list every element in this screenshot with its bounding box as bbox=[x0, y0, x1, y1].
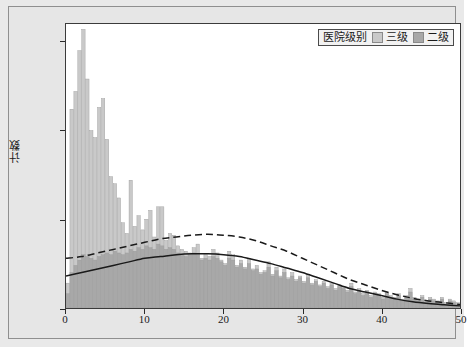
legend-entry-1[interactable]: 二级 bbox=[413, 32, 449, 43]
x-tick-mark bbox=[382, 309, 383, 314]
legend: 医院级别 三级 二级 bbox=[318, 29, 454, 46]
x-tick-mark bbox=[223, 309, 224, 314]
x-tick-label: 0 bbox=[45, 314, 85, 325]
legend-entry-0[interactable]: 三级 bbox=[372, 32, 408, 43]
density-curve bbox=[66, 254, 460, 306]
x-tick-mark bbox=[461, 309, 462, 314]
x-tick-mark bbox=[65, 309, 66, 314]
legend-label-1: 二级 bbox=[427, 32, 449, 43]
x-tick-label: 50 bbox=[441, 314, 471, 325]
plot-area: 医院级别 三级 二级 bbox=[65, 23, 461, 309]
legend-label-0: 三级 bbox=[386, 32, 408, 43]
y-axis-label: 计数 bbox=[7, 139, 23, 163]
x-tick-label: 20 bbox=[203, 314, 243, 325]
figure-outer-frame: 计数 050100150 01020304050 医院级别 三级 二级 bbox=[8, 6, 456, 339]
x-tick-mark bbox=[144, 309, 145, 314]
x-tick-label: 40 bbox=[362, 314, 402, 325]
density-curves bbox=[66, 24, 460, 308]
x-tick-label: 10 bbox=[124, 314, 164, 325]
legend-swatch-1 bbox=[413, 32, 424, 43]
density-curve bbox=[66, 234, 460, 304]
legend-title: 医院级别 bbox=[323, 32, 367, 43]
x-tick-mark bbox=[303, 309, 304, 314]
legend-swatch-0 bbox=[372, 32, 383, 43]
x-tick-label: 30 bbox=[283, 314, 323, 325]
